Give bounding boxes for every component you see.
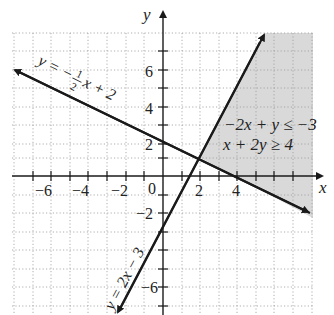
origin-label: 0 [148,180,156,197]
svg-text:1: 1 [75,67,85,80]
graph-figure: y x 0 −6 −4 −2 2 4 6 4 2 −2 −6 y = − 1 2… [0,0,334,315]
svg-text:x + 2: x + 2 [80,73,119,104]
y-tick-label: 6 [145,63,153,80]
inequality-label-1: −2x + y ≤ −3 [224,115,317,134]
x-tick-label: −6 [35,182,52,199]
x-axis-label: x [318,178,327,197]
equation-label-line1: y = − 1 2 x + 2 [31,49,120,110]
y-tick-label: −6 [141,279,158,296]
y-tick-label: −2 [136,205,153,222]
inequality-label-2: x + 2y ≥ 4 [222,135,293,154]
svg-text:=: = [46,57,62,76]
y-tick-label: 4 [145,100,153,117]
x-tick-label: 2 [195,182,203,199]
coordinate-plane: y x 0 −6 −4 −2 2 4 6 4 2 −2 −6 y = − 1 2… [0,0,334,315]
x-tick-label: 4 [232,182,240,199]
x-tick-label: −4 [72,182,89,199]
y-tick-label: 2 [145,136,153,153]
x-tick-label: −2 [111,182,128,199]
y-axis-label: y [141,5,151,24]
